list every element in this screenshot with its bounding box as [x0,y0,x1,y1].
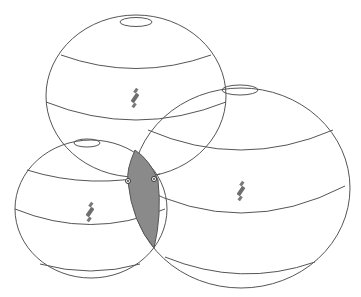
satellite-icon [81,202,100,222]
satellite-icon [232,181,251,201]
diagram-canvas [0,0,361,297]
intersection-region [128,150,160,248]
sphere-right [132,85,350,288]
satellite-icon [126,88,145,108]
three-sphere-diagram [0,0,361,297]
